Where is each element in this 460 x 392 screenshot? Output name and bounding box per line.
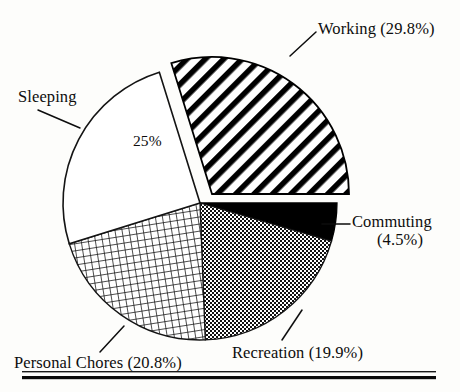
pie-chart-canvas — [0, 0, 460, 392]
thick-rule — [22, 376, 436, 379]
slice-label-commuting-name: Commuting — [352, 212, 432, 231]
leader-line-working — [290, 32, 316, 56]
leader-line-chores — [100, 326, 124, 352]
slice-label-commuting-percent: (4.5%) — [352, 231, 448, 249]
slice-working-group — [171, 57, 349, 194]
slice-label-sleeping: Sleeping — [18, 88, 77, 106]
slice-working[interactable] — [171, 57, 349, 194]
slice-label-working: Working (29.8%) — [318, 20, 435, 38]
slice-label-commuting: Commuting (4.5%) — [352, 213, 456, 250]
slice-inner-percent-sleeping: 25% — [133, 132, 162, 149]
pie-chart-figure: Working (29.8%) Sleeping 25% Commuting (… — [0, 0, 460, 392]
slice-label-personal-chores: Personal Chores (20.8%) — [14, 354, 182, 372]
leader-line-sleeping — [38, 110, 80, 128]
slice-label-recreation: Recreation (19.9%) — [232, 344, 363, 362]
leader-line-recreation — [282, 310, 302, 340]
